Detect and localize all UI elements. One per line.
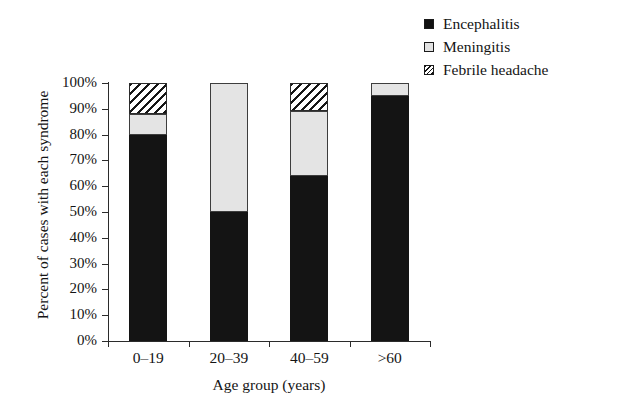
x-tick-label: 0–19 <box>108 349 189 367</box>
bar-segment-meningitis <box>371 83 409 96</box>
y-tick-label: 70% <box>70 151 98 168</box>
y-axis-line <box>108 82 109 342</box>
x-tick-label: 40–59 <box>269 349 350 367</box>
y-tick: 30% <box>102 264 108 265</box>
y-axis-title: Percent of cases with each syndrome <box>34 55 52 355</box>
y-tick: 10% <box>102 315 108 316</box>
legend-item-febrile-headache: Febrile headache <box>424 58 634 81</box>
bar-segment-febrile-headache <box>129 83 167 114</box>
y-tick-label: 20% <box>70 280 98 297</box>
x-tick <box>350 341 351 347</box>
legend-item-encephalitis: Encephalitis <box>424 12 634 35</box>
y-tick-label: 40% <box>70 229 98 246</box>
bar->60 <box>371 83 409 341</box>
y-tick-label: 50% <box>70 203 98 220</box>
legend-label-encephalitis: Encephalitis <box>443 16 520 32</box>
stacked-bar-chart: Encephalitis Meningitis Febrile headache… <box>0 0 639 416</box>
x-tick <box>108 341 109 347</box>
y-tick: 90% <box>102 109 108 110</box>
bar-segment-encephalitis <box>129 135 167 341</box>
x-tick-label: >60 <box>350 349 431 367</box>
legend-label-febrile-headache: Febrile headache <box>443 62 548 78</box>
y-tick: 50% <box>102 212 108 213</box>
y-tick: 100% <box>102 83 108 84</box>
bar-segment-encephalitis <box>210 212 248 341</box>
y-tick: 80% <box>102 135 108 136</box>
plot-area: 0%10%20%30%40%50%60%70%80%90%100% 0–1920… <box>108 83 430 341</box>
legend-swatch-solid-black-icon <box>424 19 434 29</box>
y-tick: 70% <box>102 160 108 161</box>
chart-legend: Encephalitis Meningitis Febrile headache <box>424 12 634 81</box>
y-tick-label: 10% <box>70 306 98 323</box>
bar-segment-meningitis <box>210 83 248 212</box>
y-tick-label: 90% <box>70 100 98 117</box>
bar-0–19 <box>129 83 167 341</box>
y-tick-label: 0% <box>77 332 97 349</box>
x-axis-line <box>102 341 430 342</box>
x-tick <box>430 341 431 347</box>
bar-segment-encephalitis <box>290 176 328 341</box>
legend-swatch-light-gray-icon <box>424 42 434 52</box>
y-tick-label: 60% <box>70 177 98 194</box>
bar-segment-meningitis <box>290 111 328 176</box>
y-tick-label: 100% <box>62 74 97 91</box>
bar-segment-meningitis <box>129 114 167 135</box>
y-tick: 60% <box>102 186 108 187</box>
y-tick-label: 80% <box>70 126 98 143</box>
bar-segment-febrile-headache <box>290 83 328 111</box>
legend-swatch-hatched-icon <box>424 65 434 75</box>
legend-item-meningitis: Meningitis <box>424 35 634 58</box>
y-tick-label: 30% <box>70 255 98 272</box>
bar-segment-encephalitis <box>371 96 409 341</box>
x-tick-label: 20–39 <box>189 349 270 367</box>
x-tick <box>189 341 190 347</box>
legend-label-meningitis: Meningitis <box>443 39 510 55</box>
y-tick: 20% <box>102 289 108 290</box>
bar-40–59 <box>290 83 328 341</box>
y-tick: 40% <box>102 238 108 239</box>
bar-20–39 <box>210 83 248 341</box>
x-axis-title: Age group (years) <box>108 376 430 394</box>
x-tick <box>269 341 270 347</box>
